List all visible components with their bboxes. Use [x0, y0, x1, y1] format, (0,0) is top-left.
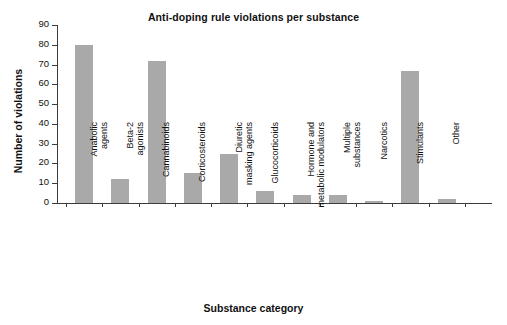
x-category-label: Corticosteroids [197, 122, 207, 208]
y-tick-label: 60 [38, 77, 49, 88]
x-tick-mark [175, 203, 176, 207]
y-tick-label: 10 [38, 176, 49, 187]
y-tick-mark [52, 65, 57, 66]
x-tick-mark [465, 203, 466, 207]
y-tick-label: 20 [38, 156, 49, 167]
x-category-label: Cannabinoids [161, 122, 171, 208]
y-tick-label: 90 [38, 18, 49, 29]
x-category-label: Beta-2 agonists [125, 122, 145, 208]
y-tick-label: 0 [44, 196, 49, 207]
y-tick-mark [52, 203, 57, 204]
y-tick-mark [52, 183, 57, 184]
x-tick-mark [66, 203, 67, 207]
x-category-label: Hormone and metabolic modulators [306, 122, 326, 208]
x-tick-mark [429, 203, 430, 207]
y-tick-mark [52, 84, 57, 85]
x-category-label: Stimulants [415, 122, 425, 208]
y-axis-line [57, 25, 58, 203]
x-category-label: Anabolic agents [89, 122, 109, 208]
x-tick-mark [211, 203, 212, 207]
chart-title: Anti-doping rule violations per substanc… [0, 11, 507, 23]
x-category-label: Other [451, 122, 461, 208]
x-tick-mark [392, 203, 393, 207]
y-tick-mark [52, 124, 57, 125]
y-tick-label: 40 [38, 117, 49, 128]
y-tick-mark [52, 163, 57, 164]
y-tick-mark [52, 45, 57, 46]
x-category-label: Glucocorticoids [270, 122, 280, 208]
y-tick-mark [52, 144, 57, 145]
x-axis-title: Substance category [0, 302, 507, 314]
y-tick-label: 80 [38, 38, 49, 49]
x-category-label: Diuretic masking agents [234, 122, 254, 208]
y-tick-label: 70 [38, 58, 49, 69]
x-tick-mark [284, 203, 285, 207]
y-tick-label: 50 [38, 97, 49, 108]
y-axis-title: Number of violations [12, 41, 24, 201]
x-category-label: Narcotics [379, 122, 389, 208]
bar-chart-figure: Anti-doping rule violations per substanc… [0, 0, 507, 325]
y-tick-label: 30 [38, 137, 49, 148]
y-tick-mark [52, 25, 57, 26]
x-category-label: Multiple substances [342, 122, 362, 208]
y-tick-mark [52, 104, 57, 105]
